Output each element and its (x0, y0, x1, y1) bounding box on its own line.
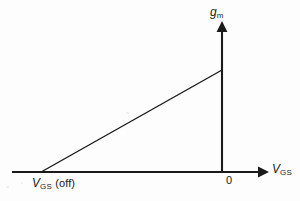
x-axis-symbol: V (272, 162, 280, 176)
y-axis-arrowhead (217, 21, 228, 32)
y-axis-subscript: m (217, 11, 224, 20)
y-axis-label-gm: gm (210, 6, 224, 18)
y-axis-symbol: g (210, 5, 217, 19)
figure-container: gm VGS 0 VGS (off) (0, 0, 300, 201)
origin-label: 0 (226, 175, 232, 186)
gm-characteristic-line (42, 70, 222, 172)
x-axis-subscript: GS (280, 168, 292, 177)
cutoff-qualifier: (off) (55, 177, 75, 189)
x-axis-arrowhead (258, 166, 269, 177)
cutoff-subscript: GS (40, 182, 52, 191)
gm-vs-vgs-plot (0, 0, 300, 201)
cutoff-symbol: V (32, 176, 40, 190)
x-axis-label-vgs: VGS (272, 163, 292, 175)
cutoff-voltage-label: VGS (off) (32, 177, 75, 189)
